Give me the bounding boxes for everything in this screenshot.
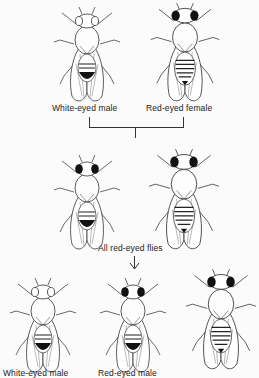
red-eye-icon: [121, 287, 129, 297]
red-eye-icon: [171, 10, 179, 20]
white-eye-icon: [76, 17, 83, 26]
f1-red-eyed-male-fly: [52, 152, 122, 252]
fly-icon: [52, 4, 122, 104]
arrow-down-icon: [129, 262, 140, 270]
cross-bracket-bottom: [89, 127, 184, 128]
f2-red-eyed-male-label: Red-eyed male: [98, 368, 157, 378]
fly-icon: [98, 275, 168, 375]
f1-label: All red-eyed flies: [98, 243, 163, 253]
parent-red-eyed-female-fly: [147, 0, 223, 104]
f1-red-eyed-female-fly: [146, 146, 222, 252]
fly-icon: [147, 0, 223, 104]
red-eye-icon: [75, 164, 83, 174]
white-eye-icon: [32, 288, 39, 297]
red-eye-icon: [170, 157, 178, 168]
fly-icon: [183, 266, 259, 372]
f2-red-eyed-female-fly: [183, 266, 259, 372]
f2-white-eyed-male-fly: [8, 275, 78, 375]
fly-icon: [8, 275, 78, 375]
red-eye-icon: [207, 277, 215, 288]
parent-male-label: White-eyed male: [52, 103, 117, 113]
f2-white-eyed-male-label: White-eyed male: [3, 368, 68, 378]
fly-icon: [52, 152, 122, 252]
parent-female-label: Red-eyed female: [146, 103, 212, 113]
fly-icon: [146, 146, 222, 252]
parent-white-eyed-male-fly: [52, 4, 122, 104]
f2-red-eyed-male-fly: [98, 275, 168, 375]
cross-bracket-stem: [135, 127, 136, 138]
